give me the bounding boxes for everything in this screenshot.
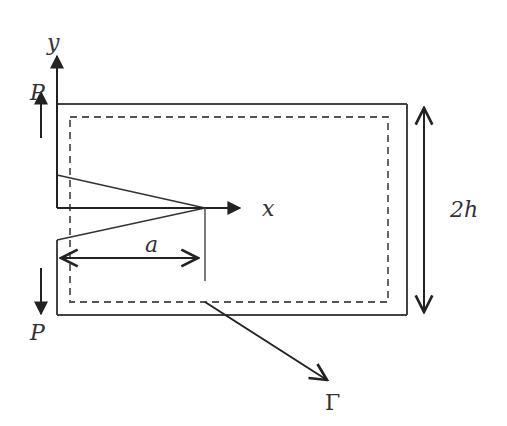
load-bottom-label: P — [29, 320, 46, 345]
specimen-outline — [57, 104, 407, 315]
contour-path — [70, 117, 388, 302]
height-label: 2h — [449, 197, 478, 222]
y-axis-label: y — [46, 30, 60, 55]
crack-length-label: a — [145, 232, 158, 257]
contour-label: Γ — [325, 390, 340, 415]
dcb-diagram: y x a P P 2h Γ — [0, 0, 507, 426]
x-axis-label: x — [262, 196, 275, 221]
contour-leader — [205, 302, 327, 380]
load-top-label: P — [29, 80, 46, 105]
